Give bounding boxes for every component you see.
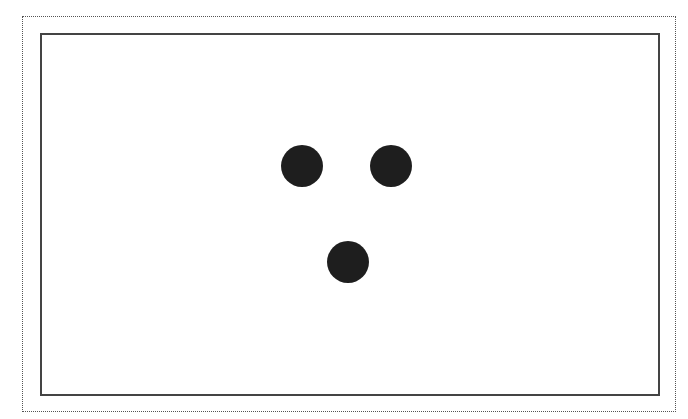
dot-1 <box>281 145 323 187</box>
dot-3 <box>327 241 369 283</box>
frame <box>40 33 660 396</box>
dot-2 <box>370 145 412 187</box>
